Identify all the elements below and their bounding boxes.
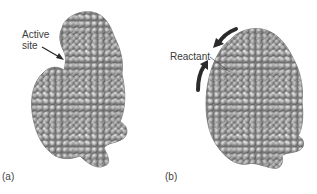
panel-letter-b: (b) bbox=[165, 171, 177, 182]
panel-a: Active site (a) bbox=[0, 0, 158, 194]
enzyme-model-b bbox=[158, 0, 316, 194]
reactant-label: Reactant bbox=[170, 51, 210, 62]
label-line-2: site bbox=[22, 40, 49, 51]
rotation-arrow-bottom-icon bbox=[198, 60, 208, 90]
label-line-1: Active bbox=[22, 29, 49, 40]
active-site-label: Active site bbox=[22, 29, 49, 51]
panel-b: Reactant (b) bbox=[158, 0, 316, 194]
panel-letter-a: (a) bbox=[2, 171, 14, 182]
